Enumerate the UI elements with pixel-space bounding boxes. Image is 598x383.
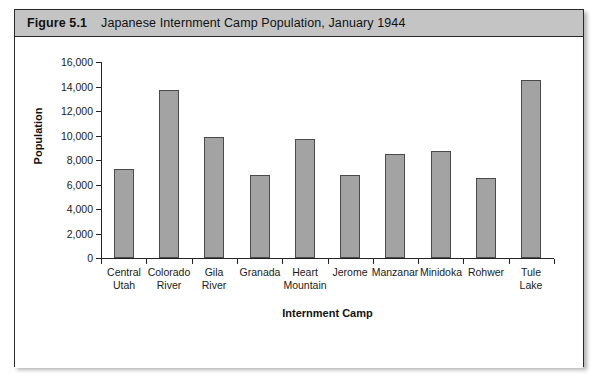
figure-panel: Figure 5.1 Japanese Internment Camp Popu… [14,9,584,367]
x-category-label-line: Mountain [274,279,336,292]
x-axis-title: Internment Camp [101,307,554,319]
bar [114,169,134,258]
x-category-label-line: Lake [500,279,562,292]
x-category-label-line: River [183,279,245,292]
x-category-label-line: Tule [500,266,562,279]
x-category-label: TuleLake [500,266,562,291]
bar [476,178,496,258]
bar [385,154,405,258]
bar [521,80,541,258]
bar [159,90,179,258]
bar [295,139,315,258]
bar [250,175,270,258]
bar [340,175,360,258]
bar [204,137,224,258]
bar [431,151,451,258]
